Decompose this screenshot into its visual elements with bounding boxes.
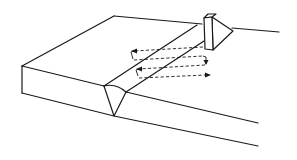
probe-wedge bbox=[212, 17, 233, 50]
scan-turn-1 bbox=[131, 51, 134, 59]
plate-top-back-edge bbox=[114, 16, 202, 24]
weld-left-toe-line bbox=[104, 25, 197, 86]
scan-arrow-2-icon bbox=[204, 60, 209, 65]
weld-v-section bbox=[104, 86, 126, 116]
scan-arrow-3-icon bbox=[136, 67, 142, 72]
scan-arrow-4-icon bbox=[205, 73, 211, 78]
base-plate bbox=[22, 16, 279, 146]
scan-arrow-1-icon bbox=[131, 49, 137, 54]
weld-inspection-diagram bbox=[0, 0, 297, 160]
angle-probe bbox=[204, 14, 233, 50]
weld-crown bbox=[104, 85, 126, 92]
plate-front-top-edge-left bbox=[22, 66, 104, 86]
probe-front-face bbox=[204, 17, 213, 50]
plate-top-back-edge-right bbox=[232, 28, 279, 32]
plate-front-top-edge-right bbox=[126, 92, 258, 123]
scan-pass-3 bbox=[139, 65, 205, 69]
plate-top-left-edge bbox=[22, 16, 114, 66]
plate-front-bottom-edge bbox=[22, 93, 258, 146]
weld-right-toe-line bbox=[126, 41, 204, 92]
v-groove-weld bbox=[104, 25, 204, 116]
